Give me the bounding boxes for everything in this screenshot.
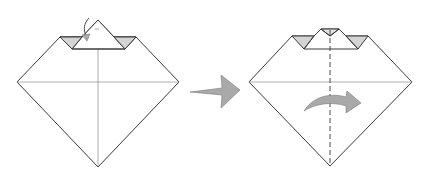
step-a [17, 18, 179, 167]
diagram-canvas [0, 0, 424, 181]
origami-diagram [0, 0, 424, 181]
top-point [72, 20, 125, 49]
step-b [249, 29, 412, 166]
big-right-arrow-icon [190, 75, 240, 108]
